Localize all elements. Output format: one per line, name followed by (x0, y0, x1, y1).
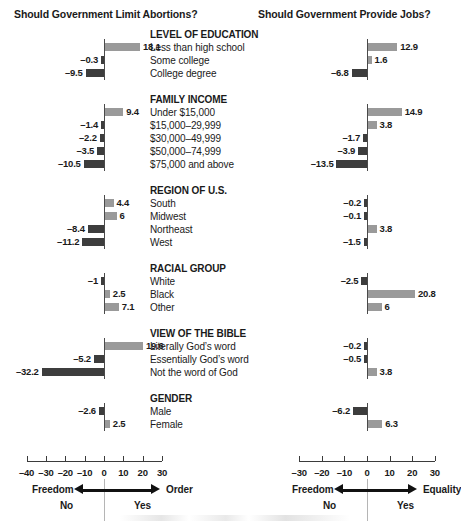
answer-yes-label: Yes (397, 500, 414, 512)
data-bar (88, 225, 104, 233)
axis-tick (435, 456, 436, 461)
page-edge-artifact (120, 515, 350, 521)
data-bar (368, 420, 382, 428)
bar-row: –6.2 (256, 405, 453, 418)
data-bar (105, 342, 143, 350)
bar-row: 6 (0, 210, 180, 223)
data-bar (361, 277, 367, 285)
bar-value-label: –0.2 (331, 340, 361, 352)
data-bar (364, 212, 367, 220)
answer-no-label: No (60, 500, 73, 512)
bar-value-label: 20.8 (418, 288, 436, 300)
data-bar (99, 407, 104, 415)
bar-value-label: 6 (120, 210, 125, 222)
data-bar (97, 147, 104, 155)
bar-value-label: 18.1 (143, 41, 161, 53)
axis-tick (367, 456, 368, 461)
bar-value-label: –0.3 (68, 54, 98, 66)
axis-tick (344, 456, 345, 461)
bar-row: 20.8 (256, 288, 453, 301)
bar-value-label: –3.9 (325, 145, 355, 157)
bar-row: –1 (0, 275, 180, 288)
bar-row: 18.1 (0, 41, 180, 54)
bar-value-label: –0.5 (331, 353, 361, 365)
bar-value-label: –2.2 (67, 132, 97, 144)
bidirectional-arrow (334, 484, 417, 495)
data-bar (336, 160, 367, 168)
bar-value-label: 7.1 (122, 301, 135, 313)
bar-value-label: –32.2 (9, 366, 39, 378)
bar-value-label: –5.2 (61, 353, 91, 365)
axis-tick (143, 456, 144, 461)
axis-pole-right: Order (166, 484, 193, 496)
bar-value-label: –1.4 (68, 119, 98, 131)
data-bar (364, 355, 367, 363)
answer-yes-label: Yes (134, 500, 151, 512)
axis-tick (412, 456, 413, 461)
bar-value-label: –1 (68, 275, 98, 287)
data-bar (105, 420, 110, 428)
axis-tick (123, 456, 124, 461)
bar-row: –0.3 (0, 54, 180, 67)
bar-value-label: –1.5 (331, 236, 361, 248)
bar-row: –3.5 (0, 145, 180, 158)
axis-pole-right: Equality (423, 484, 461, 496)
bar-value-label: –9.5 (53, 67, 83, 79)
bar-row: –2.2 (0, 132, 180, 145)
bar-row: –32.2 (0, 366, 180, 379)
bar-row: 7.1 (0, 301, 180, 314)
data-bar (368, 56, 372, 64)
data-bar (42, 368, 104, 376)
axis-tick (27, 456, 28, 461)
data-bar (101, 56, 104, 64)
axis-tick (85, 456, 86, 461)
data-bar (368, 290, 415, 298)
panel-jobs: 12.91.6–6.814.93.8–1.7–3.9–13.5–0.2–0.13… (256, 0, 453, 445)
bar-value-label: 3.8 (380, 119, 393, 131)
bar-row: 6 (256, 301, 453, 314)
data-bar (105, 303, 119, 311)
bar-row: –0.5 (256, 353, 453, 366)
axis-pole-left: Freedom (32, 484, 74, 496)
data-bar (100, 134, 104, 142)
data-bar (84, 160, 104, 168)
data-bar (363, 134, 367, 142)
arrow-shaft (341, 489, 410, 492)
data-bar (105, 43, 140, 51)
axis-tick-label: 30 (421, 467, 449, 478)
data-bar (368, 303, 382, 311)
axis-tick (299, 456, 300, 461)
bar-row: –5.2 (0, 353, 180, 366)
bar-row: –6.8 (256, 67, 453, 80)
data-bar (101, 121, 104, 129)
data-bar (352, 69, 367, 77)
bar-row: 19.6 (0, 340, 180, 353)
arrow-head-left-icon (74, 484, 83, 494)
data-bar (353, 407, 367, 415)
bar-row: 1.6 (256, 54, 453, 67)
data-bar (368, 225, 377, 233)
panel-abortions: 18.1–0.3–9.59.4–1.4–2.2–3.5–10.54.46–8.4… (0, 0, 180, 445)
data-bar (364, 238, 367, 246)
bar-row: –13.5 (256, 158, 453, 171)
bar-row: 14.9 (256, 106, 453, 119)
axis-tick (46, 456, 47, 461)
data-bar (358, 147, 367, 155)
bar-value-label: 3.8 (380, 366, 393, 378)
arrow-head-right-icon (408, 484, 417, 494)
bar-row: –1.4 (0, 119, 180, 132)
bar-value-label: 2.5 (113, 418, 126, 430)
bar-value-label: 2.5 (113, 288, 126, 300)
bar-value-label: –10.5 (51, 158, 81, 170)
bar-row: –1.7 (256, 132, 453, 145)
bar-row: 3.8 (256, 223, 453, 236)
bar-row: 9.4 (0, 106, 180, 119)
bar-value-label: –0.2 (331, 197, 361, 209)
data-bar (105, 290, 110, 298)
bar-row: –3.9 (256, 145, 453, 158)
data-bar (94, 355, 104, 363)
bar-value-label: –2.6 (66, 405, 96, 417)
axis-tick (390, 456, 391, 461)
answer-no-label: No (323, 500, 336, 512)
axis-line (27, 461, 162, 462)
